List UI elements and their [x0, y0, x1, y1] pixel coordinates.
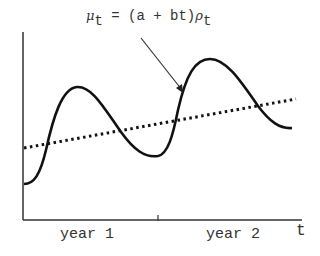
diagram-canvas	[0, 0, 320, 256]
seasonal-curve	[24, 59, 292, 184]
rho-symbol: ρ	[195, 8, 203, 23]
x-tick-label-year-2: year 2	[206, 226, 260, 243]
x-tick-label-year-1: year 1	[60, 226, 114, 243]
x-axis-label: t	[296, 222, 306, 240]
arrow-head-icon	[176, 84, 183, 93]
rho-subscript: t	[203, 13, 211, 29]
formula-middle: = (a + bt)	[103, 8, 195, 24]
trend-line-dotted	[24, 99, 296, 148]
annotation-arrow	[141, 38, 182, 90]
formula-annotation: μt = (a + bt)ρt	[86, 8, 211, 24]
mu-subscript: t	[94, 13, 102, 29]
